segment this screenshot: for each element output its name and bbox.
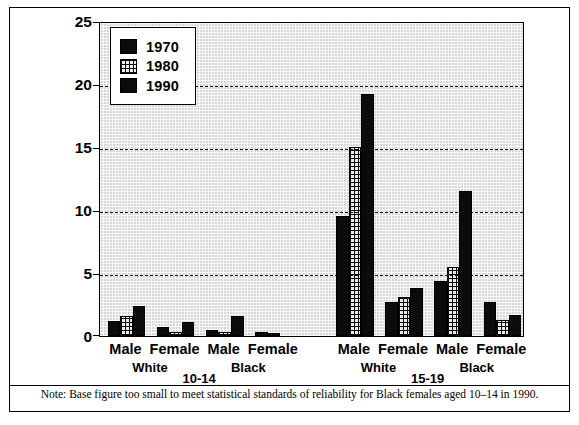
legend-label-1980: 1980	[146, 58, 179, 74]
legend-item-1980: 1980	[120, 58, 179, 74]
y-axis-tick-mark	[93, 148, 99, 149]
bar	[434, 281, 447, 336]
legend-swatch-1970	[120, 39, 137, 54]
bar	[349, 147, 362, 336]
x-axis-sex-label: Female	[476, 341, 526, 357]
bar	[361, 94, 374, 336]
y-axis-tick-label: 15	[75, 139, 92, 157]
x-axis-sex-label: Female	[248, 341, 298, 357]
legend-label-1990: 1990	[146, 78, 179, 94]
bar	[108, 321, 121, 336]
x-axis-race-label: White	[361, 360, 396, 375]
bar	[157, 327, 170, 336]
bar	[509, 315, 522, 336]
x-axis-sex-label: Male	[338, 341, 370, 357]
y-axis-tick-mark	[93, 22, 99, 23]
x-axis-sex-label: Female	[378, 341, 428, 357]
bar	[182, 322, 195, 336]
legend-item-1990: 1990	[120, 78, 179, 94]
plot-wrapper: 0510152025 1970 1980 1990	[99, 22, 524, 337]
footnote-divider	[10, 385, 569, 386]
y-axis-tick-label: 20	[75, 76, 92, 94]
gridline	[100, 275, 523, 276]
bar	[169, 332, 182, 336]
x-axis-age-label: 15-19	[411, 371, 444, 386]
x-axis-race-label: Black	[459, 360, 494, 375]
bar	[336, 216, 349, 336]
y-axis-tick-mark	[93, 85, 99, 86]
x-axis-sex-label: Female	[150, 341, 200, 357]
y-axis-tick-label: 25	[75, 13, 92, 31]
legend-swatch-1980	[120, 59, 137, 74]
y-axis-tick-mark	[93, 335, 99, 336]
y-axis-tick-label: 0	[83, 328, 92, 346]
bar	[385, 302, 398, 336]
gridline	[100, 149, 523, 150]
figure: 0510152025 1970 1980 1990 MaleFemaleMale…	[0, 0, 579, 425]
x-axis-sex-label: Male	[436, 341, 468, 357]
bar	[133, 306, 146, 336]
x-axis-sex-label: Male	[208, 341, 240, 357]
gridline	[100, 212, 523, 213]
y-axis-tick-mark	[93, 211, 99, 212]
x-axis-race-label: Black	[231, 360, 266, 375]
bar	[496, 320, 509, 336]
bar	[398, 297, 411, 336]
y-axis-tick-label: 10	[75, 202, 92, 220]
legend: 1970 1980 1990	[110, 27, 196, 105]
footnote: Note: Base figure too small to meet stat…	[10, 388, 569, 400]
y-axis-tick-mark	[93, 274, 99, 275]
y-axis-tick-label: 5	[83, 265, 92, 283]
legend-swatch-1990	[120, 78, 137, 93]
legend-label-1970: 1970	[146, 39, 179, 55]
x-axis-labels: MaleFemaleMaleFemaleMaleFemaleMaleFemale…	[99, 341, 524, 387]
x-axis-age-label: 10-14	[183, 371, 216, 386]
bar	[120, 316, 133, 336]
legend-item-1970: 1970	[120, 39, 179, 55]
bar	[231, 316, 244, 336]
bar	[218, 332, 231, 336]
bar	[268, 333, 281, 336]
bar	[447, 267, 460, 336]
bar	[410, 288, 423, 336]
x-axis-sex-label: Male	[109, 341, 141, 357]
bar	[484, 302, 497, 336]
bar	[206, 330, 219, 336]
x-axis-race-label: White	[132, 360, 167, 375]
bar	[255, 332, 268, 336]
